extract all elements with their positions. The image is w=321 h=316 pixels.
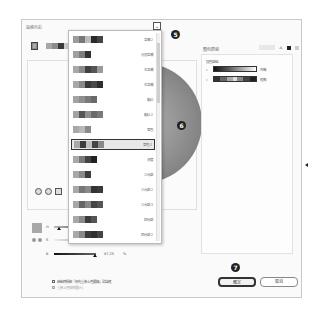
- color-mode-icons[interactable]: [32, 238, 42, 242]
- harmony-rule-item[interactable]: 分割互補: [71, 49, 155, 60]
- harmony-rule-label: 左互補: [144, 67, 153, 72]
- wheel-mode-toolbar: [35, 188, 62, 195]
- harmony-rule-item[interactable]: 三元群: [71, 169, 155, 180]
- harmony-rule-swatches: [73, 51, 91, 58]
- color-wheel-icon[interactable]: [35, 188, 42, 195]
- harmony-rule-swatches: [73, 156, 97, 163]
- active-color-swatch[interactable]: [32, 223, 42, 233]
- harmony-rule-item[interactable]: 單色: [71, 124, 155, 135]
- harmony-rule-swatches: [74, 141, 104, 148]
- color-groups-toolbar: [259, 45, 299, 50]
- checkbox[interactable]: [52, 280, 55, 283]
- harmony-rule-item[interactable]: 四元群 2: [71, 229, 155, 240]
- delete-icon[interactable]: [295, 46, 299, 50]
- harmony-rule-label: 三元群: [144, 172, 153, 177]
- brightness-label: B: [46, 252, 54, 256]
- chevron-right-icon[interactable]: ›: [206, 67, 210, 72]
- color-groups-header: 顏色群組: [203, 46, 219, 52]
- group-label: 顏色群組: [206, 59, 218, 64]
- dropdown-scrollbar[interactable]: [156, 33, 160, 241]
- color-group-bar: [213, 66, 257, 72]
- harmony-rule-swatches: [73, 171, 91, 178]
- harmony-rule-label: 四元群 2: [141, 232, 153, 237]
- harmony-rule-item[interactable]: 四元群: [71, 214, 155, 225]
- harmony-rule-label: 三元群 2: [141, 187, 153, 192]
- harmony-rule-item[interactable]: 三元群 2: [71, 184, 155, 195]
- cancel-button[interactable]: 取消: [260, 277, 298, 287]
- brightness-value[interactable]: 97.25: [104, 252, 120, 256]
- color-group-bar: [213, 76, 257, 82]
- brightness-slider-row: B 97.25 %: [46, 250, 126, 258]
- harmony-rule-swatches: [73, 231, 103, 238]
- harmony-rule-item[interactable]: 濃度: [71, 154, 155, 165]
- option-recolor-art: 重新上色線條圖(R): [52, 284, 111, 290]
- harmony-rule-swatches: [73, 186, 103, 193]
- color-groups-list: 顏色群組 › 灰階 › 暗亮: [201, 54, 293, 254]
- color-group-name: 灰階: [260, 67, 266, 72]
- brightness-slider[interactable]: [54, 253, 96, 255]
- harmony-rule-swatches: [73, 81, 103, 88]
- harmony-rule-swatches: [73, 201, 103, 208]
- chevron-right-icon[interactable]: ›: [206, 77, 210, 82]
- step-badge-7: 7: [231, 263, 240, 272]
- harmony-rule-label: 互補 2: [144, 37, 153, 42]
- chevron-down-icon: ⌄: [155, 23, 159, 29]
- saturation-label: S: [46, 238, 54, 242]
- color-bars-icon[interactable]: [55, 188, 62, 195]
- brightness-knob[interactable]: [93, 254, 97, 257]
- dialog-title: 編輯色彩: [26, 24, 42, 30]
- option-open-on-start[interactable]: 啟動時開啟「預先重新上色圖稿」對話框: [52, 278, 111, 284]
- save-icon[interactable]: [279, 46, 283, 49]
- harmony-rules-dropdown: 互補 2分割互補左互補右互補類比類比 2單色單色 2濃度三元群三元群 2三元群 …: [68, 30, 162, 244]
- harmony-rule-label: 單色 2: [143, 142, 152, 147]
- harmony-rule-label: 單色: [147, 127, 153, 132]
- harmony-rule-swatches: [73, 96, 97, 103]
- smooth-wheel-icon[interactable]: [45, 188, 52, 195]
- color-group-name: 暗亮: [260, 77, 266, 82]
- harmony-rule-item[interactable]: 類比 2: [71, 109, 155, 120]
- harmony-rules-toggle[interactable]: ⌄: [153, 22, 161, 30]
- harmony-rule-label: 類比 2: [144, 112, 153, 117]
- options: 啟動時開啟「預先重新上色圖稿」對話框 重新上色線條圖(R): [52, 278, 111, 290]
- harmony-rule-label: 類比: [147, 97, 153, 102]
- harmony-rule-label: 分割互補: [141, 52, 153, 57]
- harmony-rule-label: 濃度: [147, 157, 153, 162]
- harmony-rule-label: 四元群: [144, 217, 153, 222]
- harmony-rule-item[interactable]: 左互補: [71, 64, 155, 75]
- harmony-rule-item[interactable]: 右互補: [71, 79, 155, 90]
- harmony-rule-label: 三元群 3: [141, 202, 153, 207]
- hue-knob[interactable]: [57, 227, 61, 230]
- new-group-button[interactable]: [259, 45, 275, 50]
- option-label: 重新上色線條圖(R): [57, 285, 83, 290]
- harmony-rule-item[interactable]: 三元群 3: [71, 199, 155, 210]
- option-label: 啟動時開啟「預先重新上色圖稿」對話框: [57, 279, 111, 284]
- harmony-rule-swatches: [73, 216, 97, 223]
- harmony-rule-swatches: [73, 66, 103, 73]
- harmony-rule-item[interactable]: 類比: [71, 94, 155, 105]
- hue-label: H: [46, 225, 54, 229]
- harmony-rule-swatches: [73, 111, 103, 118]
- color-group-item[interactable]: › 灰階: [206, 66, 266, 72]
- brightness-unit: %: [123, 252, 126, 256]
- harmony-rule-swatches: [73, 126, 91, 133]
- current-color-swatch[interactable]: [31, 42, 38, 50]
- step-badge-6: 6: [177, 121, 186, 130]
- harmony-rule-item[interactable]: 互補 2: [71, 34, 155, 45]
- folder-icon[interactable]: [287, 46, 291, 50]
- harmony-rule-label: 右互補: [144, 82, 153, 87]
- ok-button[interactable]: 確定: [218, 277, 256, 287]
- harmony-rule-swatches: [73, 36, 103, 43]
- collapse-panel-icon[interactable]: [305, 163, 308, 167]
- color-group-item[interactable]: › 暗亮: [206, 76, 266, 82]
- color-groups-panel: 顏色群組 顏色群組 › 灰階 › 暗亮: [197, 42, 296, 260]
- checkbox: [52, 286, 55, 289]
- step-badge-5: 5: [171, 30, 180, 39]
- harmony-rule-item[interactable]: 單色 2: [71, 139, 155, 150]
